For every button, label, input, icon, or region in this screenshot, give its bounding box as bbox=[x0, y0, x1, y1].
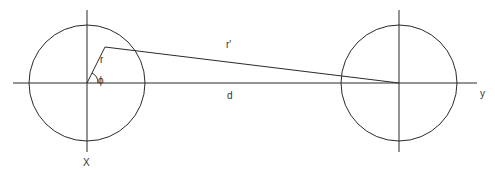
label-r: r bbox=[100, 54, 104, 65]
distance-r-prime-line bbox=[105, 47, 399, 83]
label-x-axis: X bbox=[83, 157, 90, 168]
label-phi: ϕ bbox=[98, 75, 104, 86]
two-circle-geometry-diagram: r ϕ r' d X y bbox=[0, 0, 495, 172]
label-d: d bbox=[227, 90, 233, 101]
label-r-prime: r' bbox=[226, 39, 231, 50]
label-y-axis: y bbox=[480, 88, 485, 99]
